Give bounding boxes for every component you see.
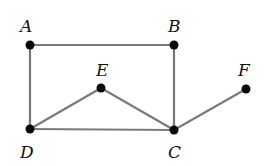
node-label-f: F [237,60,251,80]
edge-e-c [101,88,174,130]
node-b [170,41,179,50]
edge-d-e [30,88,101,129]
node-label-a: A [18,16,32,36]
node-d [26,125,35,134]
node-e [97,84,106,93]
edge-d-c [30,129,174,130]
node-a [26,41,35,50]
node-label-b: B [167,16,181,36]
node-f [242,85,251,94]
edge-c-f [174,89,246,130]
node-label-d: D [19,142,34,162]
node-label-c: C [168,142,181,162]
graph-diagram: ABEFDC [0,0,265,166]
node-c [170,126,179,135]
nodes-group [26,41,251,135]
node-label-e: E [95,60,109,80]
edges-group [30,45,246,130]
labels-group: ABEFDC [18,16,251,162]
